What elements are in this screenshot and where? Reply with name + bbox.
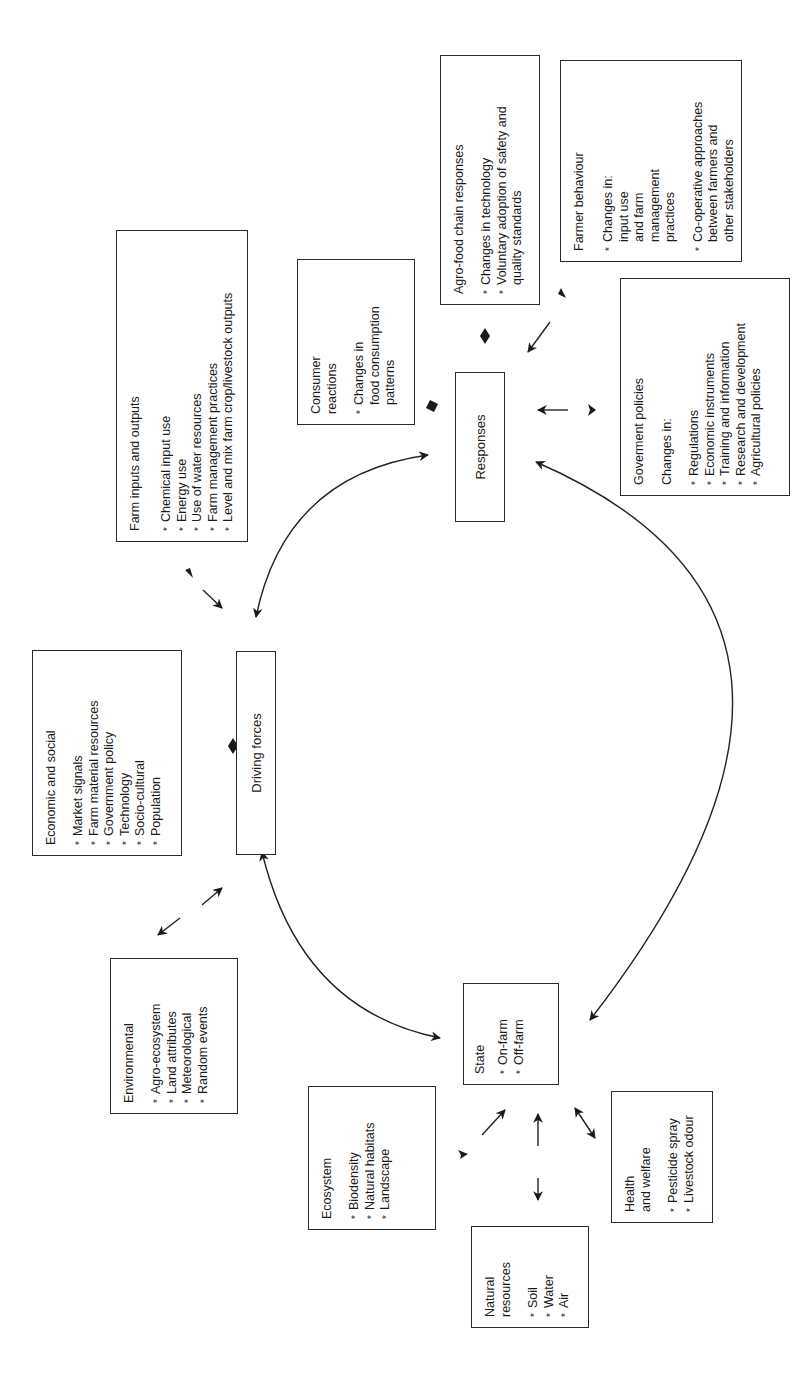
environmental-title: Environmental: [121, 967, 137, 1103]
arrow-responses-state: [536, 462, 733, 1020]
arrow-driving-responses: [256, 455, 428, 617]
farmer-behaviour-title: Farmer behaviour: [571, 69, 587, 251]
agro-food-item: Voluntary adoption of safety and quality…: [495, 64, 526, 294]
farmer-behaviour-item: Changes in: input use and farm managemen…: [601, 69, 679, 251]
government-item: Agricultural policies: [749, 287, 765, 485]
node-driving-forces: Driving forces: [236, 651, 276, 855]
box-natural-resources: Natural resources Soil Water Air: [471, 1226, 589, 1328]
arrowhead-government: [588, 404, 596, 416]
government-item: Economic instruments: [703, 287, 719, 485]
farmer-behaviour-item: Co-operative approaches between farmers …: [691, 69, 738, 251]
arrowhead-farminputs: [185, 568, 193, 578]
economic-item: Government policy: [102, 659, 118, 845]
node-responses: Responses: [455, 372, 505, 522]
arrow-farminputs-driving: [203, 590, 222, 608]
farm-inputs-item: Chemical input use: [159, 239, 175, 531]
farm-inputs-item: Farm management practices: [206, 239, 222, 531]
natural-resources-item: Air: [557, 1235, 573, 1317]
arrowhead-agrofood: [558, 288, 566, 298]
economic-item: Population: [149, 659, 165, 845]
arrowhead-ecosystem: [458, 1150, 468, 1159]
driving-forces-label: Driving forces: [249, 713, 264, 792]
box-government-policies: Goverment policies Changes in: Regulatio…: [620, 278, 790, 496]
health-welfare-title: Health and welfare: [622, 1100, 654, 1212]
health-welfare-item: Livestock odour: [682, 1100, 698, 1212]
responses-label: Responses: [473, 414, 488, 479]
farm-inputs-title: Farm inputs and outputs: [127, 239, 143, 531]
box-farm-inputs-outputs: Farm inputs and outputs Chemical input u…: [116, 230, 248, 542]
environmental-item: Meteorological: [180, 967, 196, 1103]
arrow-driving-environmental-b: [158, 918, 180, 935]
farm-inputs-item: Use of water resources: [190, 239, 206, 531]
box-ecosystem: Ecosystem Biodensity Natural habitats La…: [308, 1086, 436, 1230]
natural-resources-title: Natural resources: [482, 1235, 514, 1317]
box-environmental: Environmental Agro-ecosystem Land attrib…: [110, 958, 238, 1114]
natural-resources-item: Soil: [526, 1235, 542, 1317]
natural-resources-item: Water: [542, 1235, 558, 1317]
environmental-item: Random events: [196, 967, 212, 1103]
box-economic-social: Economic and social Market signals Farm …: [32, 650, 182, 856]
agro-food-item: Changes in technology: [479, 64, 495, 294]
consumer-title: Consumer reactions: [308, 268, 340, 414]
box-agro-food-chain: Agro-food chain responses Changes in tec…: [440, 55, 540, 305]
arrow-driving-state: [262, 852, 440, 1038]
farm-inputs-item: Level and mix farm crop/livestock output…: [221, 239, 237, 531]
economic-item: Socio-cultural: [133, 659, 149, 845]
government-item: Research and development: [734, 287, 750, 485]
arrow-ecosystem-state: [482, 1110, 505, 1135]
economic-item: Farm material resources: [87, 659, 103, 845]
state-title: State: [472, 992, 488, 1074]
farm-inputs-item: Energy use: [175, 239, 191, 531]
box-farmer-behaviour: Farmer behaviour Changes in: input use a…: [560, 60, 742, 262]
box-health-welfare: Health and welfare Pesticide spray Lives…: [611, 1091, 713, 1223]
double-arrow-consumer-responses: [426, 400, 438, 412]
agro-food-title: Agro-food chain responses: [451, 64, 467, 294]
economic-social-title: Economic and social: [43, 659, 59, 845]
ecosystem-item: Natural habitats: [363, 1095, 379, 1219]
government-item: Training and information: [718, 287, 734, 485]
box-consumer-reactions: Consumer reactions Changes in food consu…: [297, 259, 415, 425]
state-item: Off-farm: [512, 992, 528, 1074]
consumer-item: Changes in food consumption patterns: [352, 268, 399, 414]
government-title: Goverment policies: [631, 287, 647, 485]
ecosystem-title: Ecosystem: [319, 1095, 335, 1219]
economic-item: Technology: [118, 659, 134, 845]
double-arrow-agrofood-responses: [480, 328, 490, 344]
government-item: Regulations: [687, 287, 703, 485]
arrow-driving-environmental-a: [202, 888, 222, 905]
economic-item: Market signals: [71, 659, 87, 845]
state-item: On-farm: [496, 992, 512, 1074]
health-welfare-item: Pesticide spray: [666, 1100, 682, 1212]
government-subtitle: Changes in:: [659, 287, 675, 485]
ecosystem-item: Landscape: [378, 1095, 394, 1219]
environmental-item: Land attributes: [165, 967, 181, 1103]
arrow-state-health: [575, 1108, 595, 1138]
environmental-item: Agro-ecosystem: [149, 967, 165, 1103]
node-state: State On-farm Off-farm: [463, 983, 559, 1085]
arrow-farmer-responses: [528, 322, 550, 352]
ecosystem-item: Biodensity: [347, 1095, 363, 1219]
